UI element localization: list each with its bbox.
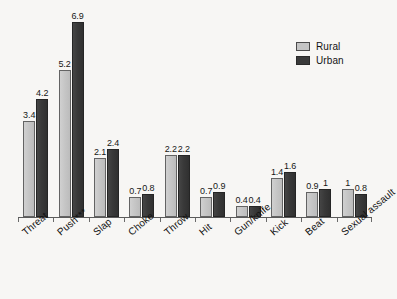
axis-tick [89, 218, 90, 222]
bar-value-label: 1.4 [271, 168, 283, 177]
axis-tick [266, 218, 267, 222]
bar-value-label: 5.2 [58, 60, 70, 69]
category-label: Hit [197, 221, 214, 237]
bar-value-label: 0.9 [213, 182, 225, 191]
bar-rect [200, 197, 212, 217]
bar-value-label: 0.8 [355, 184, 367, 193]
bar-urban: 0.4 [249, 14, 261, 217]
bar-urban: 0.8 [142, 14, 154, 217]
bar-urban: 1.6 [284, 14, 296, 217]
bar-rect [36, 99, 48, 217]
bar-value-label: 1 [323, 179, 328, 188]
bar-value-label: 4.2 [36, 89, 48, 98]
bar-value-label: 2.4 [107, 139, 119, 148]
axis-tick [301, 218, 302, 222]
bar-rural: 1.4 [271, 14, 283, 217]
bar-group: 2.22.2 [160, 14, 195, 217]
bar-rect [271, 178, 283, 217]
bar-urban: 0.8 [355, 14, 367, 217]
bar-urban: 4.2 [36, 14, 48, 217]
bar-rural: 0.7 [200, 14, 212, 217]
bar-value-label: 0.8 [142, 184, 154, 193]
bar-rect [23, 121, 35, 217]
bar-group: 3.44.2 [18, 14, 53, 217]
axis-tick [230, 218, 231, 222]
bar-group: 0.70.8 [124, 14, 159, 217]
bar-rect [319, 189, 331, 217]
bar-value-label: 0.4 [235, 196, 247, 205]
bar-rect [72, 22, 84, 217]
bar-urban: 6.9 [72, 14, 84, 217]
bar-value-label: 1.6 [284, 162, 296, 171]
bar-rural: 2.1 [94, 14, 106, 217]
bar-rect [236, 206, 248, 217]
bar-value-label: 2.2 [165, 145, 177, 154]
bar-value-label: 1 [345, 179, 350, 188]
bar-rural: 0.7 [129, 14, 141, 217]
bar-rural: 2.2 [165, 14, 177, 217]
bar-value-label: 0.9 [306, 182, 318, 191]
bar-rect [284, 172, 296, 217]
bar-rural: 3.4 [23, 14, 35, 217]
bar-rect [94, 158, 106, 217]
bar-value-label: 2.2 [178, 145, 190, 154]
axis-tick [337, 218, 338, 222]
bar-rural: 0.4 [236, 14, 248, 217]
bar-value-label: 2.1 [94, 148, 106, 157]
bar-rect [129, 197, 141, 217]
bar-urban: 0.9 [213, 14, 225, 217]
bar-rect [342, 189, 354, 217]
bar-group: 1.41.6 [266, 14, 301, 217]
bar-value-label: 0.7 [200, 187, 212, 196]
axis-tick [160, 218, 161, 222]
axis-tick [195, 218, 196, 222]
bar-value-label: 0.7 [129, 187, 141, 196]
plot-area: 3.44.25.26.92.12.40.70.82.22.20.70.90.40… [18, 14, 372, 217]
bar-rural: 5.2 [59, 14, 71, 217]
bar-urban: 2.2 [178, 14, 190, 217]
bar-group: 0.40.4 [230, 14, 265, 217]
bar-group: 0.70.9 [195, 14, 230, 217]
bar-rect [178, 155, 190, 217]
x-axis-labels: ThreatPush***SlapChokeThrowHitGun/knifeK… [18, 223, 372, 293]
axis-tick [53, 218, 54, 222]
axis-tick [18, 218, 19, 222]
bar-rect [306, 192, 318, 217]
bar-rect [165, 155, 177, 217]
bar-group: 0.91 [301, 14, 336, 217]
bar-rect [59, 70, 71, 217]
axis-tick [124, 218, 125, 222]
bar-group: 2.12.4 [89, 14, 124, 217]
bar-value-label: 0.4 [248, 196, 260, 205]
bar-rural: 1 [342, 14, 354, 217]
bar-rural: 0.9 [306, 14, 318, 217]
bar-value-label: 6.9 [71, 12, 83, 21]
bar-urban: 2.4 [107, 14, 119, 217]
bar-urban: 1 [319, 14, 331, 217]
bar-group: 10.8 [337, 14, 372, 217]
bar-rect [213, 192, 225, 217]
bar-value-label: 3.4 [23, 111, 35, 120]
axis-tick [371, 218, 372, 222]
bar-rect [107, 149, 119, 217]
bar-group: 5.26.9 [53, 14, 88, 217]
